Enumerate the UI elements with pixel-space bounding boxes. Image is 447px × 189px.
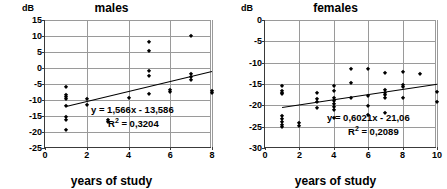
chart-panel-females: females dB 0-5-10-15-20-25-300246810y = … — [224, 0, 447, 189]
gridline-vertical — [87, 20, 88, 147]
y-tick-label: -25 — [29, 143, 42, 153]
plot-area-males: 151050-5-10-15-20-2502468y = 1,566x - 13… — [44, 20, 211, 148]
data-point — [418, 72, 423, 77]
data-point — [84, 103, 89, 108]
x-tick-label: 10 — [432, 150, 442, 160]
y-tick-label: 5 — [37, 47, 42, 57]
gridline-vertical — [212, 20, 213, 147]
gridline-horizontal — [265, 63, 436, 64]
x-tick-label: 2 — [84, 150, 89, 160]
y-tick-mark — [42, 84, 45, 85]
data-point — [366, 67, 371, 72]
y-tick-label: -15 — [249, 79, 262, 89]
data-point — [64, 104, 69, 109]
x-axis-title-females: years of study — [224, 174, 447, 188]
gridline-vertical — [437, 20, 438, 147]
y-tick-label: -20 — [29, 127, 42, 137]
x-tick-label: 4 — [126, 150, 131, 160]
y-axis-unit-label-males: dB — [22, 3, 34, 13]
y-tick-label: -20 — [249, 100, 262, 110]
x-tick-label: 6 — [168, 150, 173, 160]
data-point — [332, 83, 337, 88]
data-point — [383, 96, 388, 101]
data-point — [383, 71, 388, 76]
y-tick-label: 10 — [32, 31, 42, 41]
x-tick-label: 0 — [42, 150, 47, 160]
data-point — [64, 118, 69, 123]
y-tick-label: -15 — [29, 111, 42, 121]
data-point — [314, 106, 319, 111]
data-point — [400, 95, 405, 100]
y-tick-label: 15 — [32, 15, 42, 25]
data-point — [366, 103, 371, 108]
y-tick-mark — [262, 127, 265, 128]
y-tick-mark — [42, 132, 45, 133]
y-tick-mark — [262, 105, 265, 106]
y-tick-mark — [262, 63, 265, 64]
chart-panel-males: males dB 151050-5-10-15-20-2502468y = 1,… — [0, 0, 223, 189]
y-tick-mark — [262, 41, 265, 42]
data-point — [314, 100, 319, 105]
y-tick-label: -30 — [249, 143, 262, 153]
x-tick-label: 8 — [209, 150, 214, 160]
data-point — [147, 73, 152, 78]
data-point — [280, 92, 285, 97]
gridline-vertical — [170, 20, 171, 147]
y-tick-mark — [262, 84, 265, 85]
y-tick-mark — [42, 68, 45, 69]
data-point — [435, 90, 440, 95]
data-point — [400, 70, 405, 75]
data-point — [332, 89, 337, 94]
y-tick-mark — [262, 20, 265, 21]
y-tick-label: -10 — [249, 58, 262, 68]
data-point — [147, 40, 152, 45]
data-point — [64, 85, 69, 90]
data-point — [168, 90, 173, 95]
y-tick-label: -5 — [34, 79, 42, 89]
data-point — [147, 91, 152, 96]
y-tick-label: -10 — [29, 95, 42, 105]
x-tick-label: 0 — [262, 150, 267, 160]
data-point — [280, 125, 285, 130]
y-tick-label: 0 — [37, 63, 42, 73]
two-panel-scatter-figure: males dB 151050-5-10-15-20-2502468y = 1,… — [0, 0, 447, 189]
gridline-horizontal — [265, 41, 436, 42]
x-tick-label: 6 — [366, 150, 371, 160]
y-axis-unit-label-females: dB — [241, 3, 253, 13]
y-tick-label: -5 — [254, 36, 262, 46]
x-axis-title-males: years of study — [0, 174, 223, 188]
y-tick-label: -25 — [249, 122, 262, 132]
regression-equation-label: y = 0,6021x - 21,06 — [327, 112, 410, 123]
y-tick-mark — [42, 116, 45, 117]
x-tick-label: 8 — [400, 150, 405, 160]
r-squared-label: R2 = 0,3204 — [108, 117, 159, 129]
regression-equation-label: y = 1,566x - 13,586 — [91, 104, 174, 115]
data-point — [314, 91, 319, 96]
y-tick-mark — [42, 100, 45, 101]
data-point — [349, 66, 354, 71]
plot-area-females: 0-5-10-15-20-25-300246810y = 0,6021x - 2… — [264, 20, 436, 148]
y-tick-mark — [42, 36, 45, 37]
y-tick-label: 0 — [257, 15, 262, 25]
x-tick-label: 4 — [331, 150, 336, 160]
data-point — [189, 33, 194, 38]
r-squared-label: R2 = 0,2089 — [348, 125, 399, 137]
data-point — [147, 69, 152, 74]
y-tick-mark — [42, 52, 45, 53]
y-tick-mark — [42, 20, 45, 21]
gridline-vertical — [299, 20, 300, 147]
chart-title-females: females — [224, 1, 447, 15]
x-tick-label: 2 — [297, 150, 302, 160]
plot-frame-top — [265, 20, 436, 21]
data-point — [189, 78, 194, 83]
